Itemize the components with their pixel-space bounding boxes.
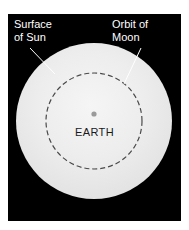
label-orbit-of-moon: Orbit of Moon xyxy=(112,18,148,43)
scene-svg xyxy=(8,14,181,221)
sun-disc xyxy=(16,43,172,199)
label-earth: EARTH xyxy=(0,126,189,138)
label-surface-of-sun: Surface of Sun xyxy=(14,18,52,43)
earth-dot xyxy=(91,111,96,116)
diagram-root: Surface of Sun Orbit of Moon EARTH xyxy=(0,0,189,230)
diagram-panel xyxy=(8,14,181,221)
